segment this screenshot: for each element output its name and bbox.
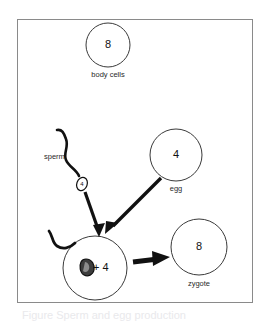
- zygote-label: zygote: [172, 280, 226, 288]
- figure-root: 8 body cells 4 egg 8 zygote sperm 4 + 4 …: [0, 0, 271, 321]
- sperm-label: sperm: [44, 153, 65, 161]
- body-cells-label: body cells: [78, 71, 138, 79]
- egg-value: 4: [149, 149, 203, 160]
- figure-caption: Figure Sperm and egg production: [22, 310, 262, 321]
- zygote-value: 8: [170, 241, 228, 252]
- sperm-head-value: 4: [77, 181, 87, 187]
- body-cells-value: 8: [86, 39, 130, 50]
- egg-label: egg: [155, 185, 197, 193]
- diagram-frame: [17, 19, 253, 303]
- fertilized-cell-value: + 4: [93, 262, 109, 273]
